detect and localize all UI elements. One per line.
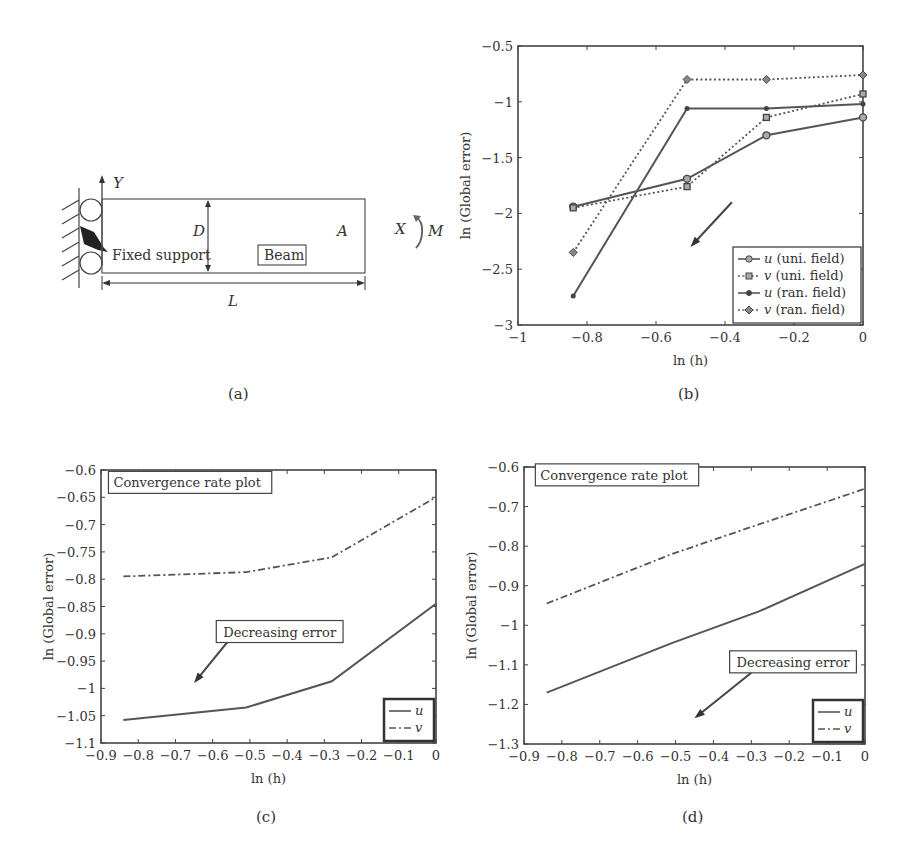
- marker-diamond-icon: [762, 75, 770, 83]
- y-tick-label: −0.8: [64, 572, 96, 587]
- y-tick-label: −0.6: [487, 460, 519, 475]
- length-label: L: [227, 292, 238, 310]
- y-tick-label: −0.75: [56, 545, 96, 560]
- x-tick-label: −0.6: [640, 330, 672, 345]
- legend-box: [384, 699, 434, 741]
- y-tick-label: −3: [494, 318, 513, 333]
- y-tick-label: −2.5: [481, 262, 513, 277]
- x-axis-label: X: [394, 220, 407, 238]
- y-tick-label: −0.85: [56, 600, 96, 615]
- x-tick-label: −0.7: [584, 749, 616, 764]
- x-tick-label: −0.4: [709, 330, 741, 345]
- y-tick-label: −0.65: [56, 490, 96, 505]
- depth-arrow-bottom-icon: [205, 265, 211, 272]
- arrow-line: [699, 673, 751, 715]
- fixed-support-arrow-icon: [80, 226, 108, 252]
- y-tick-label: −2: [494, 206, 513, 221]
- point-a-label: A: [335, 222, 348, 240]
- annotation-title: Convergence rate plot: [540, 468, 688, 483]
- series-line-v-uni-field-: [573, 94, 863, 208]
- x-tick-label: −0.2: [773, 749, 805, 764]
- marker-square-icon: [570, 205, 576, 211]
- x-tick-label: −0.6: [622, 749, 654, 764]
- y-tick-label: −0.5: [481, 39, 513, 54]
- caption-c: (c): [256, 808, 276, 826]
- wall-hatch-icon: [62, 188, 79, 288]
- marker-dot-icon: [571, 293, 576, 298]
- marker-dot-icon: [764, 106, 769, 111]
- x-tick-label: −0.5: [660, 749, 692, 764]
- marker-square-icon: [763, 114, 769, 120]
- y-tick-label: −1.2: [487, 697, 519, 712]
- y-tick-label: −1.05: [56, 709, 96, 724]
- legend-label: u: [415, 703, 423, 718]
- caption-b: (b): [678, 385, 699, 403]
- marker-diamond-icon: [569, 248, 577, 256]
- marker-square-icon: [684, 184, 690, 190]
- x-tick-label: −0.4: [698, 749, 730, 764]
- x-tick-label: −0.3: [736, 749, 768, 764]
- legend-label: v (ran. field): [764, 302, 845, 317]
- chart-b-svg: −1−0.8−0.6−0.4−0.20−3−2.5−2−1.5−1−0.5ln …: [450, 0, 899, 420]
- roller-top-icon: [80, 199, 102, 221]
- y-axis-label: ln (Global error): [41, 553, 56, 661]
- fixed-support-label: Fixed support: [112, 247, 211, 263]
- y-axis-label: ln (Global error): [464, 552, 479, 660]
- chart-c-svg: −0.9−0.8−0.7−0.6−0.5−0.4−0.3−0.2−0.10−1.…: [0, 430, 450, 863]
- x-tick-label: −0.8: [122, 748, 154, 763]
- marker-circle-icon: [860, 114, 867, 121]
- y-tick-label: −1.5: [481, 151, 513, 166]
- panel-d-chart: −0.9−0.8−0.7−0.6−0.5−0.4−0.3−0.2−0.10−1.…: [450, 430, 899, 863]
- depth-arrow-top-icon: [205, 200, 211, 207]
- decreasing-error-label: Decreasing error: [223, 625, 337, 640]
- caption-d: (d): [682, 808, 703, 826]
- x-tick-label: −0.8: [571, 330, 603, 345]
- y-axis-label: Y: [113, 174, 125, 192]
- panel-a-beam-diagram: Y D A Fixed support Beam L X M (a): [0, 0, 450, 420]
- x-tick-label: −0.4: [271, 748, 303, 763]
- legend-label: u (ran. field): [764, 285, 846, 300]
- legend-box: [813, 700, 863, 742]
- y-axis-label: ln (Global error): [458, 132, 473, 240]
- panel-c-chart: −0.9−0.8−0.7−0.6−0.5−0.4−0.3−0.2−0.10−1.…: [0, 430, 450, 863]
- y-tick-label: −1: [500, 618, 519, 633]
- length-arrow-right-icon: [357, 280, 365, 286]
- panel-b-chart: −1−0.8−0.6−0.4−0.20−3−2.5−2−1.5−1−0.5ln …: [450, 0, 899, 420]
- legend-label: v: [415, 720, 423, 735]
- x-tick-label: −0.5: [234, 748, 266, 763]
- decreasing-error-label: Decreasing error: [737, 655, 851, 670]
- x-tick-label: −0.6: [197, 748, 229, 763]
- x-tick-label: 0: [432, 748, 440, 763]
- y-tick-label: −1.3: [487, 737, 519, 752]
- y-tick-label: −0.7: [487, 500, 519, 515]
- arrow-line: [695, 202, 732, 242]
- series-line-u-uni-field-: [573, 117, 863, 206]
- x-tick-label: −0.7: [160, 748, 192, 763]
- y-tick-label: −0.7: [64, 518, 96, 533]
- y-axis-arrow-icon: [99, 175, 105, 183]
- y-tick-label: −0.9: [487, 579, 519, 594]
- x-tick-label: −0.3: [309, 748, 341, 763]
- series-line-v: [123, 497, 436, 576]
- roller-bottom-icon: [80, 252, 102, 274]
- marker-circle-icon: [763, 132, 770, 139]
- chart-d-svg: −0.9−0.8−0.7−0.6−0.5−0.4−0.3−0.2−0.10−1.…: [450, 430, 899, 863]
- moment-arrow-icon: [416, 218, 422, 248]
- x-tick-label: 0: [859, 330, 867, 345]
- moment-label: M: [427, 222, 444, 240]
- y-tick-label: −1.1: [487, 658, 519, 673]
- y-tick-label: −0.8: [487, 539, 519, 554]
- x-axis-label: ln (h): [673, 353, 708, 368]
- length-arrow-left-icon: [102, 280, 110, 286]
- x-tick-label: −0.1: [811, 749, 843, 764]
- x-tick-label: −0.1: [383, 748, 415, 763]
- annotation-title: Convergence rate plot: [113, 475, 261, 490]
- legend-label: v: [844, 721, 852, 736]
- beam-label: Beam: [264, 247, 304, 263]
- marker-square-icon: [860, 91, 866, 97]
- x-tick-label: −0.2: [778, 330, 810, 345]
- marker-dot-icon: [685, 106, 690, 111]
- depth-label: D: [192, 222, 205, 240]
- x-tick-label: −0.2: [346, 748, 378, 763]
- y-tick-label: −0.6: [64, 463, 96, 478]
